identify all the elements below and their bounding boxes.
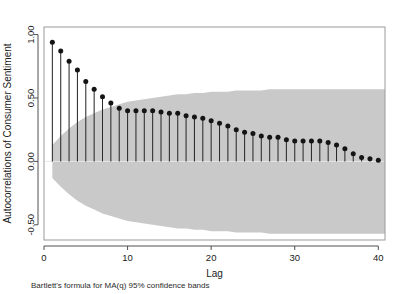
acf-data-point bbox=[167, 111, 172, 116]
acf-data-point bbox=[159, 109, 164, 114]
acf-data-point bbox=[50, 40, 55, 45]
acf-plot-canvas: 1.000.500.00-0.50 010203040 Autocorrelat… bbox=[0, 0, 401, 294]
acf-data-point bbox=[234, 127, 239, 132]
acf-data-point bbox=[301, 139, 306, 144]
y-axis-tick-label: 0.00 bbox=[25, 152, 36, 171]
acf-data-point bbox=[317, 139, 322, 144]
acf-data-point bbox=[67, 59, 72, 64]
acf-data-point bbox=[359, 155, 364, 160]
acf-data-point bbox=[225, 123, 230, 128]
chart-caption: Bartlett's formula for MA(q) 95% confide… bbox=[31, 281, 210, 290]
acf-data-point bbox=[142, 108, 147, 113]
acf-data-point bbox=[92, 87, 97, 92]
y-axis-title: Autocorrelations of Consumer Sentiment bbox=[2, 43, 13, 223]
acf-data-point bbox=[376, 158, 381, 163]
acf-data-point bbox=[200, 116, 205, 121]
acf-data-point bbox=[250, 131, 255, 136]
acf-data-point bbox=[58, 49, 63, 54]
y-axis-tick-label: 1.00 bbox=[25, 25, 36, 44]
x-axis-tick-label: 0 bbox=[41, 252, 46, 263]
x-axis-tick-label: 40 bbox=[373, 252, 384, 263]
y-axis-tick-label: -0.50 bbox=[25, 214, 36, 236]
acf-data-point bbox=[334, 142, 339, 147]
acf-data-point bbox=[367, 156, 372, 161]
acf-data-point bbox=[276, 135, 281, 140]
acf-data-point bbox=[75, 68, 80, 73]
acf-data-point bbox=[133, 108, 138, 113]
acf-data-point bbox=[259, 134, 264, 139]
acf-data-point bbox=[100, 94, 105, 99]
acf-data-point bbox=[309, 139, 314, 144]
acf-data-point bbox=[267, 135, 272, 140]
acf-data-point bbox=[184, 113, 189, 118]
acf-data-point bbox=[209, 118, 214, 123]
acf-data-point bbox=[175, 111, 180, 116]
acf-data-point bbox=[326, 140, 331, 145]
x-axis-tick-label: 20 bbox=[206, 252, 217, 263]
acf-data-point bbox=[83, 79, 88, 84]
acf-data-point bbox=[242, 130, 247, 135]
acf-data-point bbox=[192, 115, 197, 120]
acf-data-point bbox=[284, 137, 289, 142]
acf-data-point bbox=[108, 101, 113, 106]
acf-data-point bbox=[351, 151, 356, 156]
y-axis-tick-label: 0.50 bbox=[25, 89, 36, 108]
acf-data-point bbox=[117, 106, 122, 111]
x-axis-tick-label: 10 bbox=[122, 252, 133, 263]
acf-chart-figure: 1.000.500.00-0.50 010203040 Autocorrelat… bbox=[0, 0, 401, 294]
acf-data-point bbox=[125, 108, 130, 113]
acf-data-point bbox=[342, 146, 347, 151]
acf-data-point bbox=[150, 108, 155, 113]
acf-data-point bbox=[217, 121, 222, 126]
x-axis-title: Lag bbox=[206, 268, 223, 279]
x-axis-tick-label: 30 bbox=[289, 252, 300, 263]
acf-data-point bbox=[292, 139, 297, 144]
